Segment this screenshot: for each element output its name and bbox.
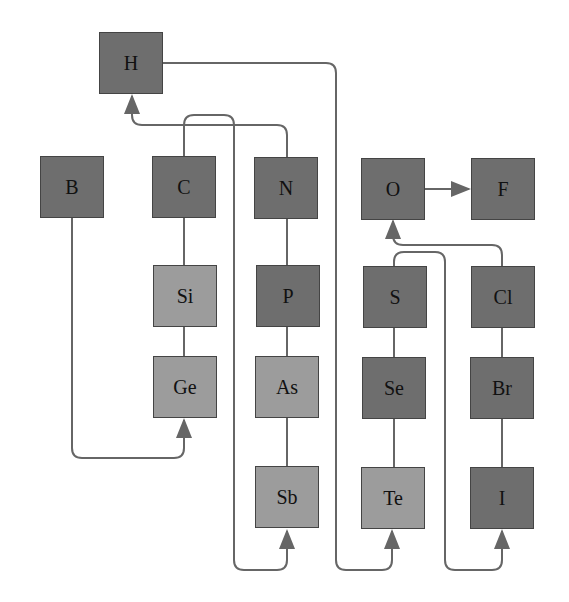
- element-box-sb: Sb: [255, 466, 319, 528]
- element-box-n: N: [254, 157, 318, 219]
- element-label: I: [499, 487, 506, 510]
- element-box-p: P: [256, 265, 320, 327]
- element-box-si: Si: [153, 265, 217, 327]
- element-box-as: As: [255, 356, 319, 418]
- element-box-te: Te: [361, 467, 425, 529]
- element-box-i: I: [470, 467, 534, 529]
- element-label: O: [386, 178, 400, 201]
- element-label: H: [124, 52, 138, 75]
- element-box-f: F: [471, 158, 535, 220]
- element-label: Ge: [173, 376, 196, 399]
- element-label: Si: [177, 285, 194, 308]
- element-label: Te: [383, 487, 403, 510]
- element-label: C: [177, 176, 190, 199]
- element-box-ge: Ge: [153, 356, 217, 418]
- element-box-b: B: [40, 156, 104, 218]
- element-label: F: [497, 178, 508, 201]
- element-box-se: Se: [362, 357, 426, 419]
- element-label: B: [65, 176, 78, 199]
- element-flow-diagram: HBCNOFSiPSClGeAsSeBrSbTeI: [0, 0, 569, 602]
- element-box-cl: Cl: [471, 266, 535, 328]
- element-label: N: [279, 177, 293, 200]
- element-box-o: O: [361, 158, 425, 220]
- element-box-br: Br: [470, 357, 534, 419]
- element-label: Sb: [276, 486, 297, 509]
- element-box-c: C: [152, 156, 216, 218]
- element-label: Cl: [494, 286, 513, 309]
- element-label: Br: [492, 377, 512, 400]
- element-label: As: [276, 376, 298, 399]
- element-label: P: [282, 285, 293, 308]
- element-label: S: [389, 286, 400, 309]
- element-label: Se: [384, 377, 404, 400]
- element-box-s: S: [363, 266, 427, 328]
- element-box-h: H: [99, 32, 163, 94]
